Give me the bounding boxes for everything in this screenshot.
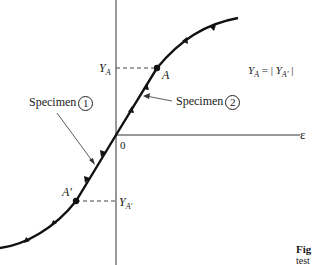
diagram-canvas <box>0 0 314 265</box>
Y-A-prime-main: Y <box>119 195 126 209</box>
specimen-1-label: Specimen1 <box>29 96 93 111</box>
specimen-2-leader-arrowhead <box>143 93 150 99</box>
figure-caption: Fig test <box>296 244 311 265</box>
Y-A-label: YA <box>99 62 111 77</box>
equation: YA = | YA' | <box>248 65 293 79</box>
caption-text: test <box>296 255 310 265</box>
stress-strain-curve <box>0 18 238 248</box>
eq-lhs-sub: A <box>254 70 259 79</box>
point-A-marker <box>154 65 160 71</box>
specimen-2-label: Specimen2 <box>176 95 240 110</box>
Y-A-prime-label: YA' <box>119 196 132 211</box>
eq-rhs-sub: A' <box>282 70 289 79</box>
caption-bold: Fig <box>296 243 311 255</box>
specimen-2-number: 2 <box>225 95 240 110</box>
origin-label: 0 <box>120 140 126 151</box>
Y-A-main: Y <box>99 61 106 75</box>
specimen-2-text: Specimen <box>176 94 223 108</box>
eq-close: | <box>291 64 293 76</box>
eq-equals: = | <box>262 64 273 76</box>
specimen-1-number: 1 <box>78 96 93 111</box>
strain-axis-label: ε <box>300 128 305 141</box>
Y-A-sub: A <box>106 68 111 77</box>
specimen-1-text: Specimen <box>29 95 76 109</box>
point-A-prime-label: A' <box>62 186 72 198</box>
specimen-1-leader <box>57 113 93 162</box>
specimen-1-leader-arrowhead <box>89 158 95 165</box>
point-A-label: A <box>162 69 169 81</box>
specimen-2-leader <box>146 96 172 101</box>
point-A-prime-marker <box>73 198 79 204</box>
Y-A-prime-sub: A' <box>126 202 133 211</box>
